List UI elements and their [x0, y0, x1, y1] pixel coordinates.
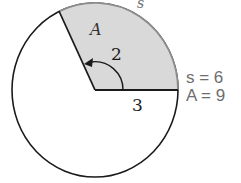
radius-label: 3 — [132, 95, 143, 115]
area-result: A = 9 — [186, 86, 225, 105]
arc-label: s — [137, 0, 144, 11]
arc-length-result: s = 6 — [186, 68, 223, 87]
sector-diagram: A s 2 3 s = 6 A = 9 — [0, 0, 241, 183]
angle-label: 2 — [111, 44, 122, 64]
area-label: A — [88, 20, 102, 39]
